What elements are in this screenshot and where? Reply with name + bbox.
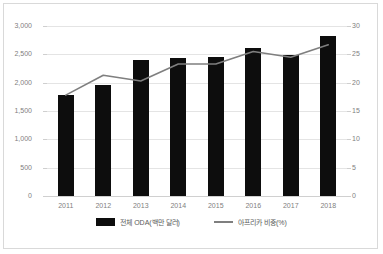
category-axis-tick-label: 2016: [233, 202, 273, 209]
line-swatch-icon: [214, 221, 233, 223]
right-axis-tick-mark: [347, 83, 351, 84]
right-axis-tick-mark: [347, 196, 351, 197]
right-axis-tick-label: 10: [352, 135, 360, 142]
right-axis-tick-mark: [347, 139, 351, 140]
chart-legend: 전체 ODA(백만 달러) 아프리카 비중(%): [4, 218, 379, 226]
left-axis-tick-label: 2,500: [14, 50, 32, 57]
category-axis-tick-label: 2014: [158, 202, 198, 209]
legend-item-africa-share[interactable]: 아프리카 비중(%): [214, 219, 287, 226]
left-axis-tick-label: 1,500: [14, 107, 32, 114]
plot-area: [47, 26, 347, 196]
left-axis-tick-label: 1,000: [14, 135, 32, 142]
left-axis-tick-label: 0: [28, 192, 32, 199]
legend-item-label: 아프리카 비중(%): [238, 219, 287, 226]
gridline: [47, 196, 347, 197]
bar-swatch-icon: [96, 218, 115, 226]
category-axis-tick-label: 2015: [196, 202, 236, 209]
left-axis-tick-label: 2,000: [14, 79, 32, 86]
category-axis-tick-label: 2011: [46, 202, 86, 209]
right-axis-tick-label: 20: [352, 79, 360, 86]
legend-item-label: 전체 ODA(백만 달러): [120, 219, 180, 226]
category-axis-tick-label: 2018: [308, 202, 348, 209]
left-axis-tick-label: 500: [20, 164, 32, 171]
right-axis-tick-mark: [347, 168, 351, 169]
line-series-path: [66, 45, 329, 95]
category-axis-tick-label: 2017: [271, 202, 311, 209]
category-axis-tick-label: 2012: [83, 202, 123, 209]
right-axis-tick-mark: [347, 111, 351, 112]
chart-frame: 05001,0001,5002,0002,5003,000 0510152025…: [3, 3, 378, 249]
right-axis-tick-label: 30: [352, 22, 360, 29]
legend-item-total-oda[interactable]: 전체 ODA(백만 달러): [96, 218, 180, 226]
right-axis-tick-mark: [347, 54, 351, 55]
right-axis-tick-label: 5: [352, 164, 356, 171]
left-axis-tick-label: 3,000: [14, 22, 32, 29]
right-axis-tick-label: 25: [352, 50, 360, 57]
line-series: [47, 26, 347, 196]
right-axis-tick-mark: [347, 26, 351, 27]
category-axis-tick-label: 2013: [121, 202, 161, 209]
right-axis-tick-label: 0: [352, 192, 356, 199]
right-axis-tick-label: 15: [352, 107, 360, 114]
